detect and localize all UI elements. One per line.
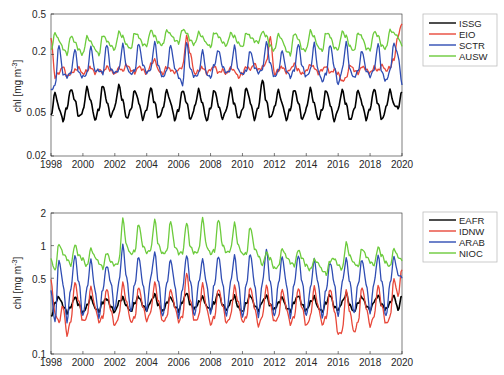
top-ytick-0.05: 0.05 [27,107,47,118]
x-tick-label-2000: 2000 [72,357,95,368]
x-tick-label-2020: 2020 [391,159,414,170]
bottom-ytick-0.1: 0.1 [32,349,46,360]
top-y-axis-label: chl [mg m-3] [11,60,23,113]
x-tick-label-2006: 2006 [168,357,191,368]
x-tick-label-2012: 2012 [263,159,286,170]
top-ytick-0.2: 0.2 [32,46,46,57]
bottom-ytick-0.5: 0.5 [32,274,46,285]
x-tick-label-2008: 2008 [199,159,222,170]
x-tick-label-2014: 2014 [295,357,318,368]
x-tick-label-2016: 2016 [327,357,350,368]
x-tick-label-2020: 2020 [391,357,414,368]
legend-label-sctr: SCTR [459,40,485,51]
x-tick-label-2010: 2010 [231,159,254,170]
top-plot-area [51,14,402,156]
bottom-ytick-1: 1 [40,241,46,252]
legend-label-issg: ISSG [459,18,482,29]
legend-label-idnw: IDNW [459,226,484,237]
x-tick-label-2012: 2012 [263,357,286,368]
legend-label-eio: EIO [459,29,475,40]
chart-figure: 1998200020022004200620082010201220142016… [0,0,504,375]
x-tick-label-2016: 2016 [327,159,350,170]
x-tick-label-2000: 2000 [72,159,95,170]
x-tick-label-2004: 2004 [136,159,159,170]
top-legend: ISSG EIO SCTR AUSW [423,14,497,66]
x-tick-label-2010: 2010 [231,357,254,368]
x-tick-label-2006: 2006 [168,159,191,170]
top-ytick-0.5: 0.5 [32,9,46,20]
legend-label-nioc: NIOC [459,248,483,259]
bottom-y-axis-label: chl [mg m-3] [11,257,23,310]
top-ytick-0.02: 0.02 [27,150,47,161]
x-tick-label-2002: 2002 [104,357,127,368]
legend-label-arab: ARAB [459,237,485,248]
x-tick-label-2008: 2008 [199,357,222,368]
bottom-ytick-2: 2 [40,208,46,219]
top-panel: 1998200020022004200620082010201220142016… [11,9,497,170]
x-tick-label-2018: 2018 [359,159,382,170]
x-tick-label-2002: 2002 [104,159,127,170]
x-tick-label-2004: 2004 [136,357,159,368]
x-tick-label-2014: 2014 [295,159,318,170]
bottom-panel: 1998200020022004200620082010201220142016… [11,208,497,368]
legend-label-ausw: AUSW [459,51,488,62]
x-tick-label-2018: 2018 [359,357,382,368]
bottom-legend: EAFR IDNW ARAB NIOC [423,212,497,262]
legend-label-eafr: EAFR [459,215,484,226]
